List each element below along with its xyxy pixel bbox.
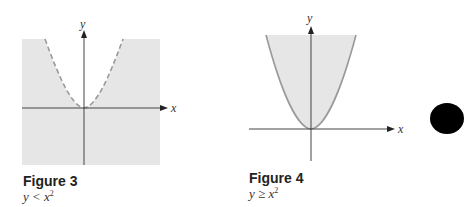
figure-4-graph: x y xyxy=(249,11,404,161)
figure-3-x-label: x xyxy=(170,101,177,115)
figure-3-inequality-exponent: 2 xyxy=(50,189,54,198)
figure-4-y-arrow-icon xyxy=(308,26,314,34)
figure-3-inequality-base: y < x xyxy=(23,189,50,204)
figure-3-label: Figure 3 xyxy=(23,173,77,189)
figure-4-inequality-base: y ≥ x xyxy=(249,186,274,201)
figure-4-x-arrow-icon xyxy=(387,126,395,132)
figure-4-inequality: y ≥ x2 xyxy=(249,186,278,202)
figure-3-graph: x y xyxy=(22,17,177,165)
figure-4-label: Figure 4 xyxy=(249,170,303,186)
figure-3-shaded-region-fix xyxy=(22,39,160,165)
figure-3-inequality: y < x2 xyxy=(23,189,54,205)
figure-4-x-label: x xyxy=(397,122,404,136)
section-marker-dot xyxy=(430,103,464,134)
figure-3-x-arrow-icon xyxy=(160,105,168,111)
figure-3-y-arrow-icon xyxy=(81,30,87,38)
figure-3-y-label: y xyxy=(79,17,86,31)
figure-4-y-label: y xyxy=(306,11,313,25)
figure-4-inequality-exponent: 2 xyxy=(274,186,278,195)
